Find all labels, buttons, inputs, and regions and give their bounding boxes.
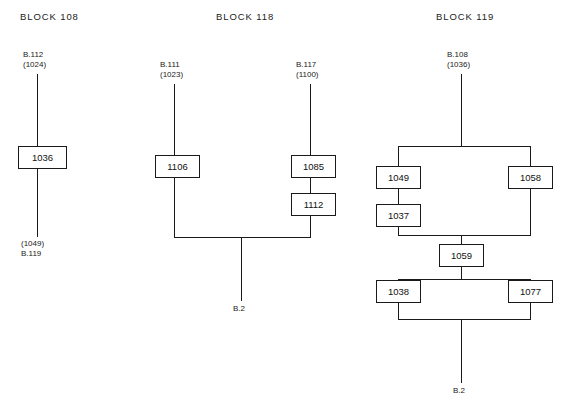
node-1036-label: 1036 xyxy=(32,152,53,163)
node-1106[interactable]: 1106 xyxy=(155,155,200,178)
node-1077[interactable]: 1077 xyxy=(508,280,553,303)
block-118-left-merge-connector xyxy=(174,178,175,237)
block-119-lower-right-merge-connector xyxy=(530,303,531,320)
block-119-output-connector xyxy=(461,319,462,383)
node-1059[interactable]: 1059 xyxy=(439,244,484,267)
block-119-input-label-line1: B.108 xyxy=(447,50,470,60)
node-1049-label: 1049 xyxy=(388,172,409,183)
block-119-1049-to-1037-connector xyxy=(398,189,399,204)
block-119-lower-left-merge-connector xyxy=(398,303,399,320)
block-118-output-label: B.2 xyxy=(233,304,245,314)
node-1085-label: 1085 xyxy=(303,161,324,172)
block-119-merge-bar-upper xyxy=(398,235,531,236)
block-118-input-label-right: B.117 (1100) xyxy=(296,60,319,80)
block-118-left-input-connector xyxy=(174,84,175,155)
block-108-output-label: (1049) B.119 xyxy=(21,239,44,259)
block-119-right-branch-connector xyxy=(530,146,531,166)
block-119-input-label-line2: (1036) xyxy=(447,60,470,70)
node-1058[interactable]: 1058 xyxy=(508,166,553,189)
block-119-right-merge-connector xyxy=(530,189,531,236)
node-1058-label: 1058 xyxy=(520,172,541,183)
block-119-input-connector xyxy=(461,74,462,146)
block-118-right-merge-connector xyxy=(310,216,311,237)
node-1112-label: 1112 xyxy=(304,199,324,210)
block-118-input-label-left: B.111 (1023) xyxy=(160,60,183,80)
node-1059-label: 1059 xyxy=(451,250,472,261)
block-118-input-label-right-line1: B.117 xyxy=(296,60,319,70)
node-1038-label: 1038 xyxy=(388,286,409,297)
block-118-output-connector xyxy=(241,237,242,301)
block-108-input-label-line2: (1024) xyxy=(23,60,46,70)
block-118-output-label-line1: B.2 xyxy=(233,304,245,314)
block-118-merge-bar xyxy=(174,237,311,238)
block-108-output-connector xyxy=(37,169,38,237)
block-118-input-label-left-line1: B.111 xyxy=(160,60,183,70)
block-119-output-label: B.2 xyxy=(453,386,465,396)
node-1037[interactable]: 1037 xyxy=(376,204,421,227)
block-119-merge-bar-lower xyxy=(398,319,531,320)
node-1036[interactable]: 1036 xyxy=(18,146,67,169)
block-118-right-input-connector xyxy=(310,84,311,155)
node-1077-label: 1077 xyxy=(520,286,541,297)
block-119-left-branch-connector xyxy=(398,146,399,166)
block-108-input-connector xyxy=(37,74,38,146)
block-118-title: BLOCK 118 xyxy=(216,11,274,22)
node-1112[interactable]: 1112 xyxy=(291,193,336,216)
block-119-input-label: B.108 (1036) xyxy=(447,50,470,70)
block-108-output-label-line1: (1049) xyxy=(21,239,44,249)
block-119-title: BLOCK 119 xyxy=(436,11,494,22)
block-108-input-label: B.112 (1024) xyxy=(23,50,46,70)
block-108-output-label-line2: B.119 xyxy=(21,249,44,259)
block-119-output-label-line1: B.2 xyxy=(453,386,465,396)
block-diagram-canvas: BLOCK 108 B.112 (1024) 1036 (1049) B.119… xyxy=(0,0,565,416)
node-1049[interactable]: 1049 xyxy=(376,166,421,189)
block-119-1059-output-connector xyxy=(461,267,462,279)
node-1038[interactable]: 1038 xyxy=(376,280,421,303)
block-118-input-label-left-line2: (1023) xyxy=(160,70,183,80)
block-119-merge-to-1059-connector xyxy=(461,235,462,244)
block-118-input-label-right-line2: (1100) xyxy=(296,70,319,80)
node-1085[interactable]: 1085 xyxy=(291,155,336,178)
block-119-split-bar-top xyxy=(398,146,531,147)
node-1106-label: 1106 xyxy=(167,161,187,172)
node-1037-label: 1037 xyxy=(388,210,409,221)
block-108-title: BLOCK 108 xyxy=(20,11,79,22)
block-108-input-label-line1: B.112 xyxy=(23,50,46,60)
block-118-1085-to-1112-connector xyxy=(310,178,311,193)
